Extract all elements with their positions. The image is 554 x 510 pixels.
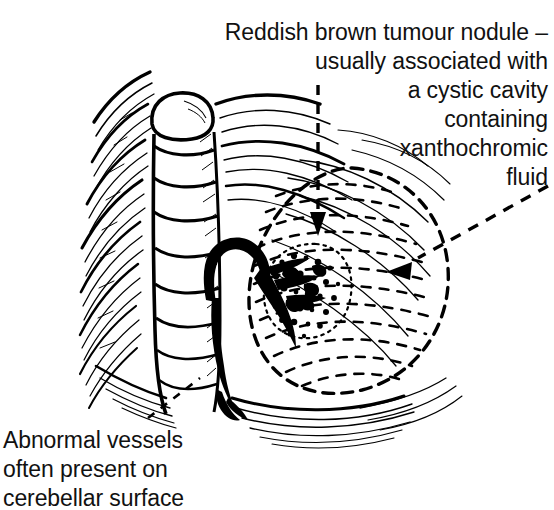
annotation-tumour-nodule: Reddish brown tumour nodule – usually as… [178, 18, 548, 192]
annotation-abnormal-vessels: Abnormal vessels often present on cerebe… [3, 426, 303, 510]
